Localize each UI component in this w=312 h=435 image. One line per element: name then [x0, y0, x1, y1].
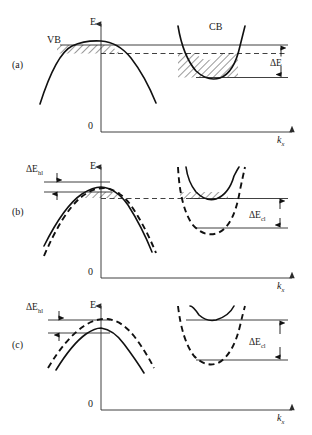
panel-b-energy-axis-label: E	[90, 160, 96, 171]
panel-a-origin-label: 0	[88, 120, 93, 131]
panel-a-gap-label: ΔE	[270, 58, 282, 68]
panel-b-origin-label: 0	[88, 266, 93, 277]
panel-c-energy-axis-label: E	[90, 299, 96, 310]
panel-c-label: (c)	[12, 339, 23, 351]
panel-a-label: (a)	[12, 59, 23, 71]
panel-a-energy-axis-label: E	[90, 16, 96, 27]
panel-b-label: (b)	[12, 206, 24, 218]
band-structure-figure: (a) E 0 kx VB CB ΔE (b) E	[0, 0, 312, 435]
panel-a-valence-band-label: VB	[47, 34, 61, 45]
panel-c-origin-label: 0	[88, 398, 93, 409]
panel-a-conduction-band-label: CB	[209, 21, 223, 32]
